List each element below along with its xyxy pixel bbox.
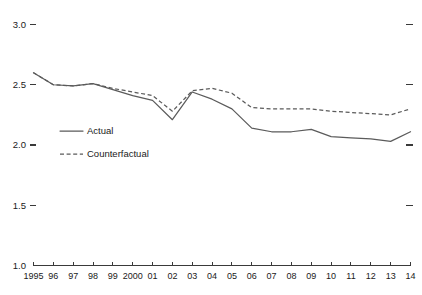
x-axis-tick-label: 08 bbox=[286, 271, 296, 281]
chart-legend: ActualCounterfactual bbox=[60, 125, 149, 159]
x-axis-tick-label: 04 bbox=[207, 271, 217, 281]
legend-label-actual: Actual bbox=[87, 125, 113, 136]
x-axis-tick-label: 11 bbox=[346, 271, 355, 281]
right-axis-ticks bbox=[406, 25, 413, 206]
x-axis-tick-label: 10 bbox=[326, 271, 336, 281]
x-axis-tick-label: 2000 bbox=[123, 271, 143, 281]
x-axis-tick-label: 97 bbox=[68, 271, 78, 281]
x-axis-tick-label: 09 bbox=[306, 271, 316, 281]
x-axis-tick-label: 13 bbox=[386, 271, 396, 281]
y-axis: 1.01.52.02.53.0 bbox=[13, 19, 36, 271]
x-axis-tick-label: 05 bbox=[227, 271, 237, 281]
legend-label-counterfactual: Counterfactual bbox=[87, 148, 149, 159]
x-axis-tick-label: 96 bbox=[48, 271, 58, 281]
chart-container: 1.01.52.02.53.0 199596979899200001020304… bbox=[0, 0, 422, 295]
x-axis-tick-label: 1995 bbox=[23, 271, 43, 281]
x-axis-tick-label: 99 bbox=[108, 271, 118, 281]
y-axis-tick-label: 1.5 bbox=[13, 200, 26, 211]
y-axis-tick-label: 2.5 bbox=[13, 79, 26, 90]
x-axis-tick-label: 01 bbox=[148, 271, 158, 281]
x-axis-tick-label: 12 bbox=[366, 271, 376, 281]
x-axis-tick-label: 98 bbox=[88, 271, 98, 281]
x-axis-tick-label: 06 bbox=[247, 271, 257, 281]
x-axis-tick-label: 07 bbox=[267, 271, 277, 281]
y-axis-tick-label: 3.0 bbox=[13, 19, 26, 30]
y-axis-tick-label: 2.0 bbox=[13, 139, 26, 150]
x-axis: 1995969798992000010203040506070809101112… bbox=[23, 262, 415, 281]
x-axis-tick-label: 02 bbox=[167, 271, 177, 281]
x-axis-tick-label: 03 bbox=[187, 271, 197, 281]
series-line-counterfactual bbox=[34, 73, 411, 115]
line-chart: 1.01.52.02.53.0 199596979899200001020304… bbox=[0, 0, 422, 295]
y-axis-tick-label: 1.0 bbox=[13, 260, 26, 271]
x-axis-tick-label: 14 bbox=[405, 271, 415, 281]
